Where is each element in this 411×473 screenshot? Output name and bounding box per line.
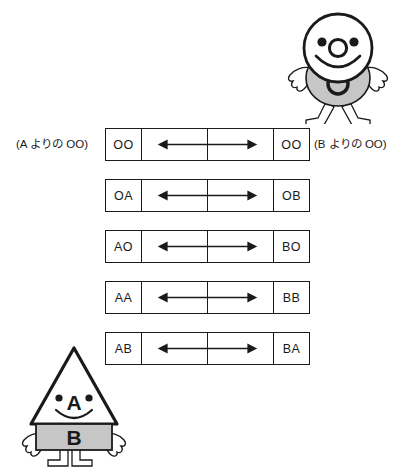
mid-half-right (208, 333, 274, 364)
round-character-figure (268, 4, 408, 124)
table-row: AB BA (105, 332, 310, 365)
right-eye-icon (85, 394, 92, 401)
right-caption: (B よりの OO) (314, 139, 387, 151)
row-right-cell: OB (273, 180, 309, 211)
triangle-character-svg: A B (14, 340, 134, 468)
mid-half-right (208, 231, 274, 262)
row-middle-cell (142, 231, 273, 262)
triangle-character-figure: A B (14, 340, 134, 468)
face-letter: A (66, 391, 81, 414)
mid-half-right (208, 282, 274, 313)
table-row: AO BO (105, 230, 310, 263)
row-middle-cell (142, 282, 273, 313)
mid-half-left (142, 333, 208, 364)
right-eye-icon (349, 37, 358, 46)
round-character-svg (268, 4, 408, 124)
row-middle-cell (142, 180, 273, 211)
row-left-cell: OA (106, 180, 142, 211)
body-letter: B (66, 426, 81, 449)
row-right-cell: OO (273, 129, 309, 160)
mid-half-right (208, 180, 274, 211)
nose-o-icon (329, 39, 346, 56)
row-left-cell: AA (106, 282, 142, 313)
allele-table: OO OO OA (105, 128, 310, 365)
mid-half-right (208, 129, 274, 160)
row-middle-cell (142, 333, 273, 364)
left-eye-icon (317, 37, 326, 46)
table-row: OO OO (105, 128, 310, 161)
table-row: OA OB (105, 179, 310, 212)
row-left-cell: OO (106, 129, 142, 160)
mid-half-left (142, 231, 208, 262)
left-eye-icon (55, 394, 62, 401)
row-right-cell: BO (273, 231, 309, 262)
row-right-cell: BA (273, 333, 309, 364)
mid-half-left (142, 282, 208, 313)
row-right-cell: BB (273, 282, 309, 313)
mid-half-left (142, 180, 208, 211)
row-left-cell: AO (106, 231, 142, 262)
diagram-canvas: OO OO OA (0, 0, 411, 473)
left-caption: (A よりの OO) (16, 139, 88, 151)
row-middle-cell (142, 129, 273, 160)
table-row: AA BB (105, 281, 310, 314)
mid-half-left (142, 129, 208, 160)
